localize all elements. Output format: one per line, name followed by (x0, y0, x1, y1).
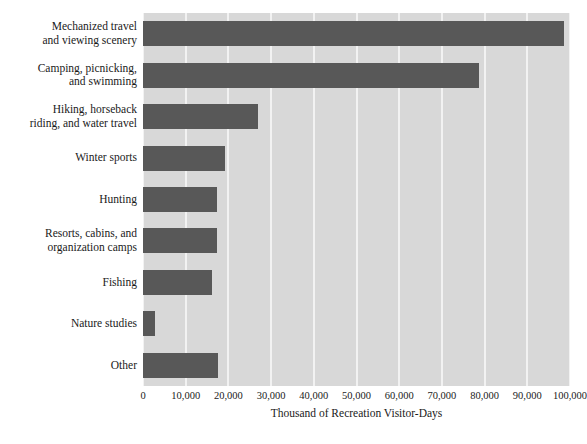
gridline (569, 13, 570, 386)
bar (143, 63, 479, 88)
x-tick-label: 90,000 (513, 389, 542, 402)
category-label: Hiking, horseback riding, and water trav… (0, 103, 137, 130)
category-label: Nature studies (0, 317, 137, 331)
bar (143, 270, 212, 295)
bar (143, 353, 218, 378)
x-tick-label: 100,000 (553, 389, 587, 402)
x-tick-label: 30,000 (257, 389, 286, 402)
category-label: Other (0, 359, 137, 373)
x-tick-label: 70,000 (427, 389, 456, 402)
x-tick-label: 50,000 (342, 389, 371, 402)
x-tick-label: 10,000 (171, 389, 200, 402)
chart-title (143, 0, 570, 8)
category-label: Hunting (0, 193, 137, 207)
x-tick-label: 20,000 (214, 389, 243, 402)
category-label: Mechanized travel and viewing scenery (0, 20, 137, 47)
bar (143, 146, 225, 171)
bar (143, 104, 258, 129)
plot-area (143, 13, 570, 386)
bar (143, 187, 217, 212)
gridline (484, 13, 486, 386)
x-tick-label: 40,000 (299, 389, 328, 402)
bar (143, 21, 564, 46)
gridline (526, 13, 528, 386)
category-axis-labels: Mechanized travel and viewing sceneryCam… (0, 13, 137, 386)
category-label: Camping, picnicking, and swimming (0, 62, 137, 89)
bar (143, 228, 217, 253)
bar (143, 311, 155, 336)
category-label: Resorts, cabins, and organization camps (0, 227, 137, 254)
x-tick-label: 0 (140, 389, 145, 402)
x-tick-label: 60,000 (385, 389, 414, 402)
x-axis-tick-labels: 010,00020,00030,00040,00050,00060,00070,… (0, 389, 587, 405)
x-axis-title: Thousand of Recreation Visitor-Days (143, 407, 570, 419)
category-label: Winter sports (0, 151, 137, 165)
category-label: Fishing (0, 276, 137, 290)
x-tick-label: 80,000 (470, 389, 499, 402)
bar-chart: Mechanized travel and viewing sceneryCam… (0, 0, 587, 444)
